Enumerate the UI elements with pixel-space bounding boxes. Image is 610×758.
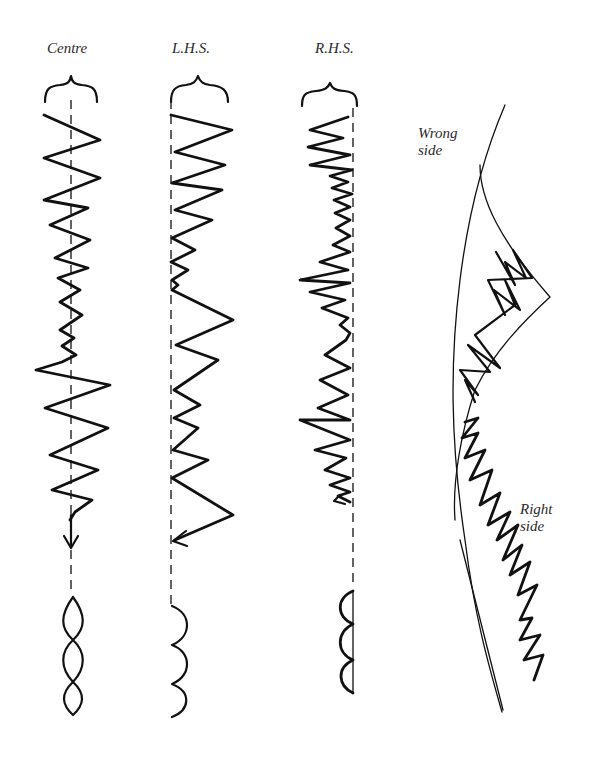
centre-result-shape (63, 597, 83, 715)
lhs-brace-icon (171, 76, 228, 102)
lhs-result-shape (172, 606, 187, 717)
rhs-column (300, 83, 357, 693)
rhs-result-shape (340, 591, 353, 693)
right-side-zigzag (462, 418, 543, 680)
seam-outer-edge (453, 105, 505, 712)
seam-illustration (453, 105, 550, 712)
centre-zigzag (36, 115, 110, 520)
rhs-brace-icon (302, 83, 357, 106)
lhs-zigzag (171, 115, 233, 540)
centre-column (36, 76, 110, 715)
lhs-column (171, 76, 233, 717)
centre-brace-icon (45, 76, 97, 102)
rhs-zigzag (300, 117, 352, 502)
stitch-diagram (0, 0, 610, 758)
